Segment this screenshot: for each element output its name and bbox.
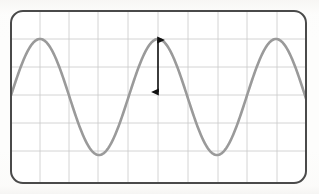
oscilloscope-figure [0, 0, 319, 194]
screen-background [11, 11, 306, 183]
scope-canvas [0, 0, 319, 194]
